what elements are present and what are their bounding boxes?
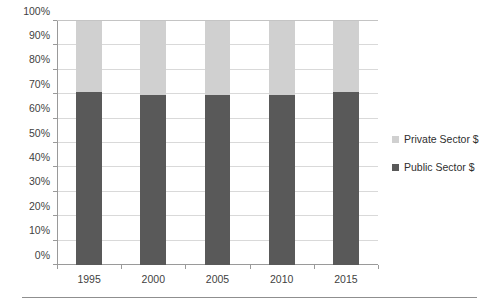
legend-label-private-sector: Private Sector $ xyxy=(404,134,479,145)
x-axis-label: 1995 xyxy=(77,274,100,285)
x-axis-tick xyxy=(185,265,186,269)
y-axis-label: 80% xyxy=(29,54,50,65)
x-axis-label: 2010 xyxy=(270,274,293,285)
legend-label-public-sector: Public Sector $ xyxy=(404,162,475,173)
legend-item-private-sector: Private Sector $ xyxy=(392,130,496,148)
bar-stack xyxy=(76,21,102,265)
legend-swatch-public-icon xyxy=(392,164,399,171)
bar-stack xyxy=(205,21,231,265)
bar-column[interactable] xyxy=(333,21,359,265)
stacked-bar-chart: 0%10%20%30%40%50%60%70%80%90%100% 199520… xyxy=(0,0,500,307)
x-axis-tick xyxy=(250,265,251,269)
x-axis-tick xyxy=(121,265,122,269)
x-axis-label: 2000 xyxy=(142,274,165,285)
bars-layer xyxy=(57,21,378,265)
y-axis-label: 40% xyxy=(29,152,50,163)
y-axis-label: 100% xyxy=(23,5,50,16)
bar-segment[interactable] xyxy=(76,92,102,265)
bar-stack xyxy=(140,21,166,265)
bar-stack xyxy=(269,21,295,265)
x-axis-tick xyxy=(314,265,315,269)
y-axis-label: 0% xyxy=(35,249,50,260)
y-axis-label: 20% xyxy=(29,200,50,211)
y-axis-label: 60% xyxy=(29,103,50,114)
bar-segment[interactable] xyxy=(333,21,359,92)
legend-swatch-private-icon xyxy=(392,136,399,143)
y-axis-label: 50% xyxy=(29,127,50,138)
x-axis-label: 2015 xyxy=(334,274,357,285)
bottom-divider xyxy=(22,297,477,298)
bar-segment[interactable] xyxy=(205,95,231,265)
legend-item-public-sector: Public Sector $ xyxy=(392,158,496,176)
bar-segment[interactable] xyxy=(140,21,166,95)
x-axis-tick xyxy=(378,265,379,269)
y-axis-label: 10% xyxy=(29,225,50,236)
bar-segment[interactable] xyxy=(205,21,231,95)
x-axis-tick xyxy=(57,265,58,269)
bar-column[interactable] xyxy=(269,21,295,265)
plot-frame: 0%10%20%30%40%50%60%70%80%90%100% 199520… xyxy=(57,21,378,265)
bar-segment[interactable] xyxy=(140,95,166,265)
x-axis-label: 2005 xyxy=(206,274,229,285)
y-axis-label: 70% xyxy=(29,78,50,89)
bar-column[interactable] xyxy=(140,21,166,265)
bar-column[interactable] xyxy=(205,21,231,265)
plot-area: 0%10%20%30%40%50%60%70%80%90%100% 199520… xyxy=(57,21,378,265)
y-axis-label: 90% xyxy=(29,30,50,41)
bar-segment[interactable] xyxy=(333,92,359,265)
bar-column[interactable] xyxy=(76,21,102,265)
bar-segment[interactable] xyxy=(76,21,102,92)
bar-segment[interactable] xyxy=(269,95,295,265)
y-axis-label: 30% xyxy=(29,176,50,187)
bar-segment[interactable] xyxy=(269,21,295,95)
chart-legend: Private Sector $ Public Sector $ xyxy=(392,130,496,186)
bar-stack xyxy=(333,21,359,265)
